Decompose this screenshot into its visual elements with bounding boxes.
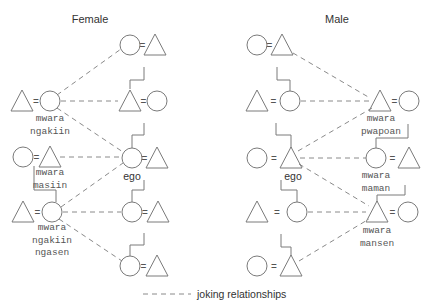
female-circle-icon [280,91,300,111]
descent-line [281,180,297,202]
female-circle-icon [147,91,167,111]
kinship-term: mwaramasiin [33,167,67,191]
descent-line [132,123,144,148]
male-triangle-icon [146,255,168,276]
male-triangle-icon [147,201,169,222]
joking-relationship-line [61,163,123,207]
descent-line [281,234,291,256]
marriage-equals-icon: = [141,96,147,107]
joking-relationship-line [57,49,121,95]
ego-label: ego [284,170,302,182]
female-circle-icon [247,256,267,276]
panel-title: Female [72,13,109,25]
male-triangle-icon [144,34,166,55]
descent-line [277,67,290,91]
female-circle-icon [122,202,142,222]
female-circle-icon [120,256,140,276]
married-couple: = [246,201,307,222]
kinship-term: mwaramansen [360,225,394,249]
married-couple: = [120,255,168,276]
descent-line [130,67,144,89]
married-couple: = [247,34,293,55]
descent-line [276,123,291,148]
male-triangle-icon [369,90,391,111]
married-couple: = [122,147,168,168]
kinship-term: mwarangakiinngasen [32,222,72,258]
marriage-equals-icon: = [271,261,277,272]
kinship-term: mwaramaman [362,170,391,194]
marriage-equals-icon: = [35,207,41,218]
male-triangle-icon [11,90,33,111]
marriage-equals-icon: = [141,261,147,272]
married-couple: = [366,201,418,222]
female-circle-icon [247,35,267,55]
kinship-diagram: Female========mwarangakiinmwaramasiinmwa… [0,0,430,306]
marriage-equals-icon: = [142,207,148,218]
female-circle-icon [287,202,307,222]
joking-relationship-line [299,219,369,261]
male-triangle-icon [366,201,388,222]
female-circle-icon [399,91,419,111]
male-triangle-icon [119,90,141,111]
ego-label: ego [123,170,141,182]
male-triangle-icon [398,147,420,168]
married-couple: = [12,201,62,222]
marriage-equals-icon: = [390,153,396,164]
female-circle-icon [42,202,62,222]
marriage-equals-icon: = [274,207,280,218]
female-circle-icon [398,202,418,222]
male-triangle-icon [280,255,302,276]
marriage-equals-icon: = [271,96,277,107]
female-circle-icon [247,148,267,168]
marriage-equals-icon: = [271,153,277,164]
marriage-equals-icon: = [390,207,396,218]
female-circle-icon [122,148,142,168]
male-triangle-icon [39,146,61,167]
marriage-equals-icon: = [34,152,40,163]
marriage-equals-icon: = [267,40,273,51]
married-couple: = [369,90,419,111]
joking-relationship-line [299,164,369,206]
kinship-term: mwarapwapoan [361,113,401,137]
male-triangle-icon [12,201,34,222]
male-panel: Male========mwarapwapoanmwaramamanmwaram… [246,13,420,276]
married-couple: = [247,147,302,168]
kinship-term: mwarangakiin [30,113,70,137]
legend-label: joking relationships [196,288,286,300]
female-circle-icon [120,35,140,55]
married-couple: = [366,147,420,168]
descent-line [130,233,144,256]
female-circle-icon [13,147,33,167]
married-couple: = [11,90,60,111]
marriage-equals-icon: = [33,96,39,107]
married-couple: = [13,146,61,167]
joking-relationship-line [293,53,370,98]
male-triangle-icon [246,90,268,111]
marriage-equals-icon: = [142,153,148,164]
panel-title: Male [325,13,349,25]
male-triangle-icon [271,34,293,55]
married-couple: = [119,90,167,111]
married-couple: = [120,34,166,55]
marriage-equals-icon: = [140,40,146,51]
married-couple: = [122,201,169,222]
male-triangle-icon [146,147,168,168]
female-panel: Female========mwarangakiinmwaramasiinmwa… [11,13,169,276]
legend: joking relationships [143,288,286,300]
marriage-equals-icon: = [392,96,398,107]
married-couple: = [247,255,302,276]
male-triangle-icon [246,201,268,222]
descent-line [132,180,144,202]
female-circle-icon [366,148,386,168]
female-circle-icon [40,91,60,111]
married-couple: = [246,90,300,111]
